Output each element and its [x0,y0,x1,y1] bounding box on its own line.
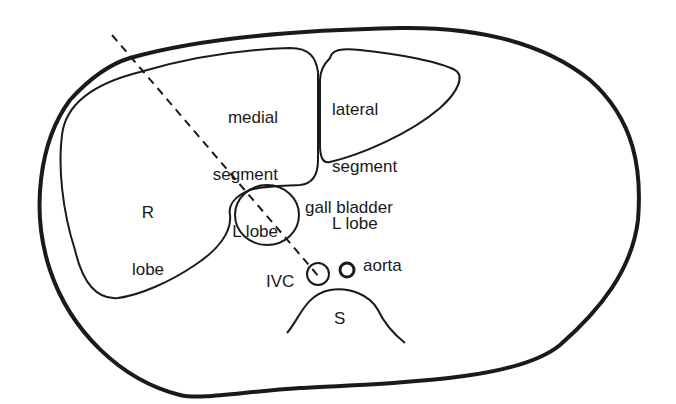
label-line: lobe [128,260,168,279]
label-line: segment [200,165,278,184]
label-lateral-segment: lateral segment L lobe [332,62,397,252]
label-gall-bladder: gall bladder [305,198,393,217]
spine-outline [287,289,405,343]
label-line: lateral [332,100,397,119]
r-lobe-medial-outline [61,48,318,298]
ivc-shape [307,263,329,285]
aorta-shape [340,263,354,277]
label-spine: S [334,309,345,328]
label-line: segment [332,157,397,176]
label-aorta: aorta [363,256,402,275]
label-ivc: IVC [266,272,294,291]
label-line: R [128,203,168,222]
label-line: medial [200,108,278,127]
label-medial-segment: medial segment L lobe [200,70,278,260]
label-line: L lobe [200,222,278,241]
label-r-lobe: R lobe [128,165,168,298]
